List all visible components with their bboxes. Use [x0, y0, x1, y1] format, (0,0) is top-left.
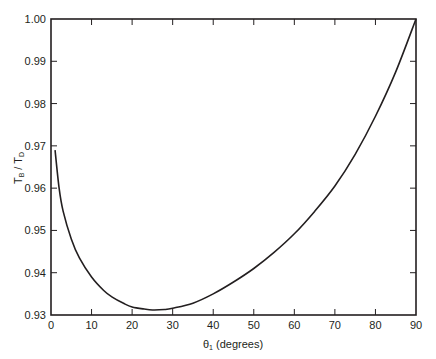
- x-tick-label: 80: [369, 319, 381, 331]
- x-tick-label: 20: [126, 319, 138, 331]
- y-tick-label: 0.99: [25, 55, 46, 67]
- y-tick-labels: 0.930.940.950.960.970.980.991.00: [25, 13, 46, 321]
- y-ticks: [51, 61, 416, 272]
- chart: 0102030405060708090 0.930.940.950.960.97…: [0, 0, 436, 359]
- y-tick-label: 1.00: [25, 13, 46, 25]
- x-tick-label: 60: [288, 319, 300, 331]
- x-tick-label: 0: [48, 319, 54, 331]
- y-tick-label: 0.95: [25, 224, 46, 236]
- x-tick-label: 30: [167, 319, 179, 331]
- y-tick-label: 0.98: [25, 98, 46, 110]
- x-tick-label: 50: [248, 319, 260, 331]
- data-line: [55, 19, 416, 310]
- x-tick-label: 10: [85, 319, 97, 331]
- x-tick-label: 70: [329, 319, 341, 331]
- y-tick-label: 0.97: [25, 140, 46, 152]
- y-tick-label: 0.93: [25, 309, 46, 321]
- x-axis-title: θ1 (degrees): [203, 338, 263, 351]
- x-tick-label: 90: [410, 319, 422, 331]
- y-tick-label: 0.94: [25, 267, 46, 279]
- x-tick-label: 40: [207, 319, 219, 331]
- plot-frame: [51, 19, 416, 315]
- y-tick-label: 0.96: [25, 182, 46, 194]
- y-axis-title: TB / TD: [12, 152, 25, 184]
- x-ticks: [92, 19, 376, 315]
- x-tick-labels: 0102030405060708090: [48, 319, 422, 331]
